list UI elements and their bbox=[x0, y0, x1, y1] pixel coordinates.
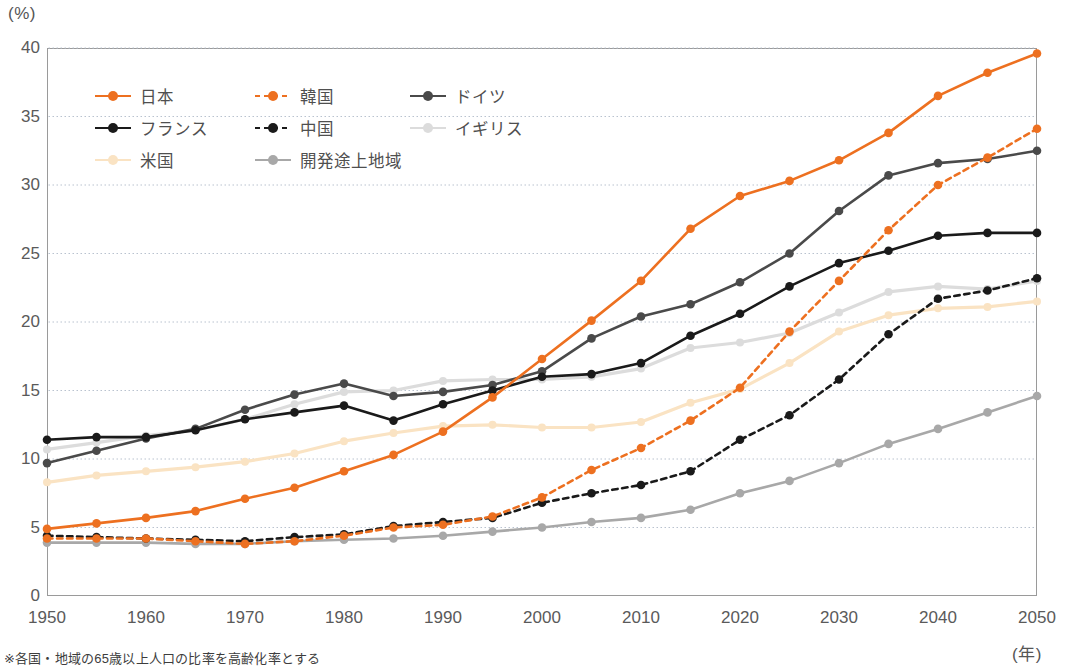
y-axis-unit-label: (%) bbox=[8, 4, 36, 24]
x-axis-unit-label: (年) bbox=[1012, 640, 1042, 665]
x-tick-1950: 1950 bbox=[17, 608, 77, 628]
legend-label: 日本 bbox=[140, 84, 174, 108]
legend-item-中国[interactable]: 中国 bbox=[255, 116, 410, 140]
legend-label: イギリス bbox=[455, 116, 523, 140]
x-tick-2040: 2040 bbox=[908, 608, 968, 628]
x-tick-1970: 1970 bbox=[215, 608, 275, 628]
legend-marker-icon bbox=[410, 121, 446, 135]
x-tick-1980: 1980 bbox=[314, 608, 374, 628]
x-tick-2030: 2030 bbox=[809, 608, 869, 628]
legend-item-韓国[interactable]: 韓国 bbox=[255, 84, 410, 108]
x-tick-1990: 1990 bbox=[413, 608, 473, 628]
y-tick-10: 10 bbox=[0, 449, 40, 469]
chart-canvas: (%) (年) 0510152025303540 195019601970198… bbox=[0, 0, 1070, 666]
legend-label: ドイツ bbox=[455, 84, 506, 108]
legend-marker-icon bbox=[95, 121, 131, 135]
y-tick-40: 40 bbox=[0, 38, 40, 58]
x-tick-1960: 1960 bbox=[116, 608, 176, 628]
legend-label: フランス bbox=[140, 116, 208, 140]
y-tick-20: 20 bbox=[0, 312, 40, 332]
y-tick-15: 15 bbox=[0, 381, 40, 401]
legend-marker-icon bbox=[255, 153, 291, 167]
y-tick-5: 5 bbox=[0, 518, 40, 538]
legend-marker-icon bbox=[95, 89, 131, 103]
legend-label: 米国 bbox=[140, 148, 174, 172]
legend-label: 中国 bbox=[300, 116, 334, 140]
x-tick-2000: 2000 bbox=[512, 608, 572, 628]
x-tick-2010: 2010 bbox=[611, 608, 671, 628]
y-tick-30: 30 bbox=[0, 175, 40, 195]
legend-label: 韓国 bbox=[300, 84, 334, 108]
legend-item-日本[interactable]: 日本 bbox=[95, 84, 255, 108]
y-tick-25: 25 bbox=[0, 244, 40, 264]
y-tick-0: 0 bbox=[0, 586, 40, 606]
chart-legend: 日本韓国ドイツフランス中国イギリス米国開発途上地域 bbox=[95, 80, 565, 176]
chart-footnote: ※各国・地域の65歳以上人口の比率を高齢化率とする bbox=[4, 648, 320, 666]
x-tick-2050: 2050 bbox=[1007, 608, 1067, 628]
legend-item-開発途上地域[interactable]: 開発途上地域 bbox=[255, 148, 410, 172]
legend-label: 開発途上地域 bbox=[300, 148, 402, 172]
y-tick-35: 35 bbox=[0, 107, 40, 127]
legend-marker-icon bbox=[255, 121, 291, 135]
legend-item-イギリス[interactable]: イギリス bbox=[410, 116, 570, 140]
legend-marker-icon bbox=[95, 153, 131, 167]
legend-item-フランス[interactable]: フランス bbox=[95, 116, 255, 140]
x-tick-2020: 2020 bbox=[710, 608, 770, 628]
legend-marker-icon bbox=[255, 89, 291, 103]
legend-marker-icon bbox=[410, 89, 446, 103]
legend-item-米国[interactable]: 米国 bbox=[95, 148, 255, 172]
legend-item-ドイツ[interactable]: ドイツ bbox=[410, 84, 570, 108]
